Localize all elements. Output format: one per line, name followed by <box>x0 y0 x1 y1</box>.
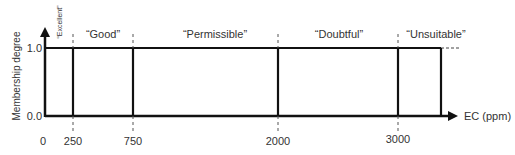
y-axis-arrow-icon <box>40 27 50 37</box>
x-axis-label: EC (ppm) <box>464 110 511 122</box>
class-label-unsuitable: “Unsuitable” <box>406 28 466 40</box>
x-tick-0: 0 <box>40 135 46 147</box>
y-tick-1: 1.0 <box>27 42 42 54</box>
class-label-good: “Good” <box>86 28 121 40</box>
x-tick-750: 750 <box>124 135 142 147</box>
membership-diagram: Membership degree 1.0 0.0 0 250 750 2000… <box>0 0 515 155</box>
x-tick-250: 250 <box>64 135 82 147</box>
class-label-excellent: “Excellent” <box>56 5 63 39</box>
class-label-permissible: “Permissible” <box>183 28 248 40</box>
x-tick-3000: 3000 <box>386 133 410 145</box>
y-tick-0: 0.0 <box>27 110 42 122</box>
y-axis-label: Membership degree <box>11 31 22 120</box>
x-axis-arrow-icon <box>448 111 458 121</box>
class-label-doubtful: “Doubtful” <box>315 28 364 40</box>
x-tick-2000: 2000 <box>266 135 290 147</box>
